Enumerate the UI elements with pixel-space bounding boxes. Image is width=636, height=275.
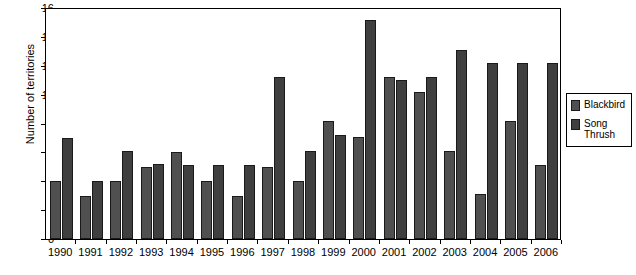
x-tick-mark [409, 240, 410, 244]
plot-area [45, 8, 561, 240]
bar [183, 165, 194, 239]
legend-item-blackbird: Blackbird [571, 99, 627, 111]
x-tick-mark [75, 240, 76, 244]
bar [232, 196, 243, 239]
bar [444, 151, 455, 239]
bar [487, 63, 498, 239]
bar [365, 20, 376, 239]
bar [505, 121, 516, 239]
bar [80, 196, 91, 239]
x-tick-mark [257, 240, 258, 244]
x-tick-mark [166, 240, 167, 244]
bar [213, 165, 224, 239]
bar [153, 164, 164, 239]
bar [426, 77, 437, 239]
bar [535, 165, 546, 239]
bar [305, 151, 316, 239]
x-tick-mark [288, 240, 289, 244]
x-tick-mark [440, 240, 441, 244]
bar [456, 50, 467, 239]
bar [274, 77, 285, 239]
bar [62, 138, 73, 239]
x-tick-mark [106, 240, 107, 244]
bar [122, 151, 133, 239]
x-tick-mark [227, 240, 228, 244]
bar [244, 165, 255, 239]
bar [110, 181, 121, 239]
x-tick-mark [561, 240, 562, 244]
x-tick-mark [318, 240, 319, 244]
x-tick-mark [531, 240, 532, 244]
bar [50, 181, 61, 239]
bar [475, 194, 486, 239]
bar [384, 77, 395, 239]
bar [547, 63, 558, 239]
legend-label-song-thrush: Song Thrush [584, 118, 615, 140]
bar [201, 181, 212, 239]
x-tick-mark [136, 240, 137, 244]
legend-swatch-blackbird [571, 100, 580, 111]
legend-item-song-thrush: Song Thrush [571, 118, 627, 140]
bar [262, 167, 273, 239]
x-tick-mark [379, 240, 380, 244]
legend-label-blackbird: Blackbird [584, 99, 625, 110]
bar [517, 63, 528, 239]
bars-layer [46, 9, 560, 239]
legend-swatch-song-thrush [571, 119, 580, 130]
x-tick-mark [349, 240, 350, 244]
bar [353, 137, 364, 240]
bar [335, 135, 346, 239]
x-tick-mark [197, 240, 198, 244]
bar [323, 121, 334, 239]
chart-legend: Blackbird Song Thrush [566, 93, 632, 147]
x-tick-mark [470, 240, 471, 244]
bar [92, 181, 103, 239]
bar [141, 167, 152, 239]
bar [414, 92, 425, 239]
x-tick-label: 2006 [526, 246, 566, 258]
bar-chart: Number of territories 0246810121416 1990… [0, 0, 636, 275]
x-tick-mark [500, 240, 501, 244]
bar [396, 80, 407, 239]
bar [171, 152, 182, 239]
bar [293, 181, 304, 239]
